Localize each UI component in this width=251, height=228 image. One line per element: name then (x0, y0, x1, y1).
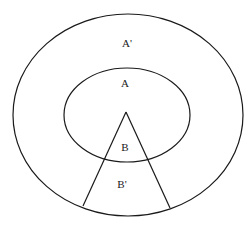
label-b-prime: B' (117, 178, 126, 190)
wedge-left-edge (83, 112, 126, 206)
wedge-right-edge (126, 112, 170, 208)
label-a-prime: A' (122, 37, 132, 49)
label-b: B (121, 141, 128, 153)
label-a: A (121, 77, 129, 89)
diagram-canvas: A' A B B' (0, 0, 251, 228)
